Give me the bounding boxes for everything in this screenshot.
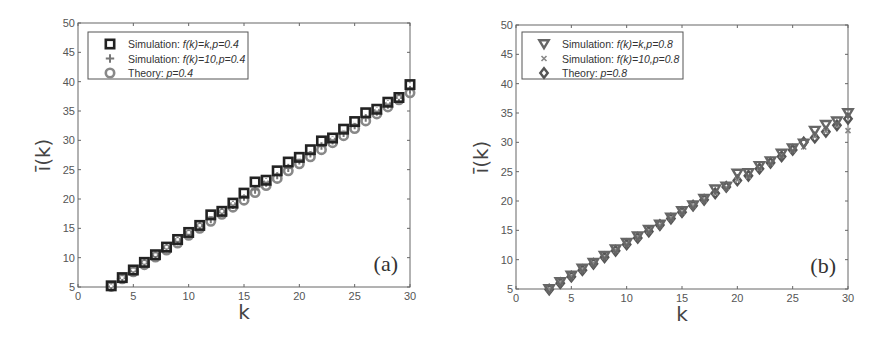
legend: Simulation: f(k)=k,p=0.4Simulation: f(k)… <box>88 32 248 79</box>
chart-b-canvas: 0510152025305101520253035404550kī(k)Simu… <box>438 0 887 338</box>
y-tick-label: 25 <box>501 166 513 178</box>
data-point <box>196 221 204 229</box>
data-point <box>240 189 248 197</box>
y-tick-label: 30 <box>501 136 513 148</box>
y-tick-label: 50 <box>63 17 75 29</box>
chart-panel-a: 0510152025305101520253035404550kī(k)Simu… <box>0 0 443 338</box>
x-tick-label: 0 <box>513 292 519 304</box>
x-tick-label: 5 <box>130 290 136 302</box>
data-point <box>295 153 303 161</box>
x-tick-label: 20 <box>293 290 305 302</box>
y-axis-label: ī(k) <box>469 141 493 175</box>
data-point <box>129 266 137 274</box>
legend: Simulation: f(k)=k,p=0.8Simulation: f(k)… <box>522 32 683 79</box>
panel-label: (a) <box>374 251 398 276</box>
y-tick-label: 25 <box>63 164 75 176</box>
data-point <box>821 121 830 129</box>
x-axis-label: k <box>676 302 688 326</box>
x-tick-label: 10 <box>183 290 195 302</box>
data-point <box>339 125 347 133</box>
legend-marker-square-icon <box>106 40 114 48</box>
data-point <box>140 258 148 266</box>
data-point <box>328 134 336 142</box>
y-tick-label: 30 <box>63 134 75 146</box>
y-tick-label: 40 <box>63 76 75 88</box>
y-tick-label: 20 <box>501 195 513 207</box>
data-point <box>284 158 292 166</box>
legend-entry: Simulation: f(k)=k,p=0.8 <box>562 38 673 50</box>
data-point <box>395 93 403 101</box>
data-point <box>799 140 808 148</box>
data-point <box>107 282 115 290</box>
x-tick-label: 5 <box>568 292 574 304</box>
legend-entry: Simulation: f(k)=k,p=0.4 <box>128 38 239 50</box>
series-square <box>107 80 414 290</box>
data-point <box>218 207 226 215</box>
data-point <box>151 251 159 259</box>
y-tick-label: 15 <box>501 224 513 236</box>
data-point <box>373 105 381 113</box>
data-point <box>229 199 237 207</box>
x-tick-label: 30 <box>842 292 854 304</box>
x-tick-label: 10 <box>621 292 633 304</box>
y-tick-label: 50 <box>501 19 513 31</box>
y-tick-label: 20 <box>63 193 75 205</box>
y-tick-label: 10 <box>63 252 75 264</box>
data-point <box>384 98 392 106</box>
x-tick-label: 30 <box>404 290 416 302</box>
y-tick-label: 35 <box>501 107 513 119</box>
y-tick-label: 45 <box>63 46 75 58</box>
data-point <box>251 178 259 186</box>
chart-panel-b: 0510152025305101520253035404550kī(k)Simu… <box>438 0 881 338</box>
series-circle <box>107 89 414 291</box>
data-points <box>545 109 853 294</box>
data-point <box>350 117 358 125</box>
data-point <box>162 243 170 251</box>
data-point <box>406 80 414 88</box>
data-point <box>262 176 270 184</box>
series-diamond <box>546 114 852 294</box>
y-tick-label: 45 <box>501 48 513 60</box>
data-point <box>317 137 325 145</box>
legend-entry: Simulation: f(k)=10,p=0.8 <box>562 53 679 65</box>
data-point <box>207 211 215 219</box>
y-tick-label: 5 <box>507 283 513 295</box>
legend-entry: Simulation: f(k)=10,p=0.4 <box>128 53 245 65</box>
data-point <box>118 273 126 281</box>
data-point <box>173 235 181 243</box>
chart-a-canvas: 0510152025305101520253035404550kī(k)Simu… <box>0 0 443 338</box>
y-tick-label: 5 <box>69 281 75 293</box>
data-point <box>810 127 819 135</box>
x-tick-label: 25 <box>349 290 361 302</box>
data-point <box>184 228 192 236</box>
panel-label: (b) <box>810 253 836 278</box>
y-axis-label: ī(k) <box>31 139 55 173</box>
data-point <box>733 170 742 178</box>
x-axis-label: k <box>238 300 250 324</box>
data-points <box>107 80 414 290</box>
data-point <box>306 146 314 154</box>
y-tick-label: 40 <box>501 78 513 90</box>
x-tick-label: 0 <box>75 290 81 302</box>
x-tick-label: 20 <box>731 292 743 304</box>
legend-entry: Theory: p=0.4 <box>128 67 193 79</box>
y-tick-label: 10 <box>501 254 513 266</box>
legend-entry: Theory: p=0.8 <box>562 67 627 79</box>
y-tick-label: 15 <box>63 222 75 234</box>
data-point <box>273 167 281 175</box>
x-tick-label: 25 <box>787 292 799 304</box>
data-point <box>362 109 370 117</box>
y-tick-label: 35 <box>63 105 75 117</box>
